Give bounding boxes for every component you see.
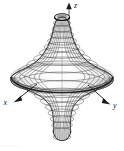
y-axis-label: y <box>112 101 117 110</box>
x-axis-label: x <box>3 98 8 107</box>
z-axis-label: z <box>73 1 78 10</box>
surface-plot-svg: z <box>0 0 124 151</box>
surface-body <box>11 14 114 141</box>
z-axis-arrow-icon <box>66 3 72 10</box>
figure-caption: ···· ·· ··· <box>0 144 124 151</box>
y-axis-arrow-icon <box>102 98 111 104</box>
surface-plot-figure: z <box>0 0 124 151</box>
